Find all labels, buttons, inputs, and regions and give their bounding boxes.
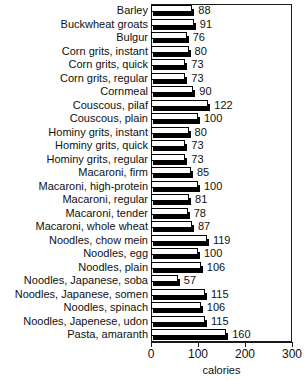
bar [151, 248, 198, 259]
bar-top-face [151, 127, 189, 134]
bar-top-face [151, 221, 192, 228]
bar-row: Bulgur76 [0, 31, 305, 45]
bar-row: Noodles, Japanese, soba57 [0, 274, 305, 288]
bar-row: Buckwheat groats91 [0, 18, 305, 32]
bar-top-face [151, 59, 185, 66]
bar-value-label: 81 [195, 193, 207, 205]
bar-value-label: 73 [191, 72, 203, 84]
bar [151, 113, 198, 124]
x-tick-label: 0 [148, 348, 155, 361]
bar-value-label: 160 [232, 328, 250, 340]
x-axis-line [151, 342, 292, 343]
bar-row: Cornmeal90 [0, 85, 305, 99]
bar-top-face [151, 140, 185, 147]
bar-row: Hominy grits, quick73 [0, 139, 305, 153]
bar-row: Noodles, spinach106 [0, 301, 305, 315]
x-tick-label: 100 [188, 348, 208, 361]
bar-row: Couscous, pilaf122 [0, 99, 305, 113]
bar [151, 221, 192, 232]
bar-top-face [151, 32, 187, 39]
bar [151, 140, 185, 151]
bar [151, 59, 185, 70]
bar-top-face [151, 5, 192, 12]
x-axis-title: calories [151, 364, 292, 376]
bar-value-label: 119 [213, 234, 231, 246]
bar-category-label: Macaroni, tender [65, 207, 148, 219]
bar [151, 194, 189, 205]
bar-value-label: 80 [195, 45, 207, 57]
bar-row: Noodles, Japanese, somen115 [0, 288, 305, 302]
bar [151, 32, 187, 43]
bar-row: Barley88 [0, 4, 305, 18]
bar-row: Macaroni, regular81 [0, 193, 305, 207]
bar-row: Noodles, plain106 [0, 261, 305, 275]
bar-top-face [151, 154, 185, 161]
bar [151, 235, 207, 246]
bar [151, 181, 198, 192]
bar-top-face [151, 73, 185, 80]
bar-value-label: 73 [191, 153, 203, 165]
bar-category-label: Noodles, Japenese, udon [23, 315, 148, 327]
bar-value-label: 85 [197, 166, 209, 178]
bar [151, 208, 188, 219]
bar-value-label: 87 [198, 220, 210, 232]
bar-rows-container: Barley88Buckwheat groats91Bulgur76Corn g… [0, 4, 305, 342]
bar [151, 46, 189, 57]
bar-category-label: Macaroni, high-protein [39, 180, 148, 192]
bar [151, 262, 201, 273]
bar-category-label: Bulgur [116, 31, 148, 43]
bar-value-label: 115 [211, 315, 229, 327]
bar-value-label: 115 [211, 288, 229, 300]
bar-value-label: 73 [191, 139, 203, 151]
bar-category-label: Hominy grits, regular [47, 153, 148, 165]
bar-chart: Barley88Buckwheat groats91Bulgur76Corn g… [0, 0, 305, 380]
bar-category-label: Noodles, Japanese, somen [15, 288, 148, 300]
bar-category-label: Macaroni, whole wheat [35, 220, 148, 232]
bar-category-label: Noodles, spinach [64, 301, 148, 313]
bar-value-label: 100 [204, 247, 222, 259]
bar-category-label: Corn grits, instant [62, 45, 148, 57]
bar-top-face [151, 208, 188, 215]
bar-top-face [151, 289, 205, 296]
bar-top-face [151, 181, 198, 188]
bar-top-face [151, 262, 201, 269]
bar [151, 154, 185, 165]
bar-category-label: Pasta, amaranth [67, 328, 148, 340]
bar [151, 73, 185, 84]
bar-category-label: Hominy grits, instant [48, 126, 148, 138]
bar-row: Noodles, chow mein119 [0, 234, 305, 248]
bar-row: Noodles, Japenese, udon115 [0, 315, 305, 329]
bar-top-face [151, 235, 207, 242]
bar-top-face [151, 329, 226, 336]
bar-top-face [151, 100, 208, 107]
cropped-title-remnant [150, 0, 290, 1]
bar-value-label: 78 [194, 207, 206, 219]
bar-category-label: Barley [117, 4, 148, 16]
bar [151, 329, 226, 340]
bar-row: Couscous, plain100 [0, 112, 305, 126]
bar [151, 167, 191, 178]
bar-category-label: Noodles, chow mein [49, 234, 148, 246]
bar-row: Hominy grits, instant80 [0, 126, 305, 140]
bar-value-label: 106 [207, 261, 225, 273]
bar-category-label: Noodles, Japanese, soba [24, 274, 148, 286]
bar-top-face [151, 248, 198, 255]
bar-value-label: 88 [198, 4, 210, 16]
bar-row: Hominy grits, regular73 [0, 153, 305, 167]
bar-category-label: Macaroni, firm [78, 166, 148, 178]
bar-row: Corn grits, regular73 [0, 72, 305, 86]
bar-value-label: 106 [207, 301, 225, 313]
bar-top-face [151, 19, 194, 26]
bar [151, 275, 178, 286]
bar-value-label: 57 [184, 274, 196, 286]
bar-top-face [151, 167, 191, 174]
x-tick-label: 200 [235, 348, 255, 361]
bar-category-label: Couscous, plain [70, 112, 148, 124]
bar-value-label: 91 [200, 18, 212, 30]
bar-category-label: Noodles, egg [83, 247, 148, 259]
bar-top-face [151, 316, 205, 323]
bar-top-face [151, 113, 198, 120]
bar-value-label: 80 [195, 126, 207, 138]
bar-value-label: 100 [204, 180, 222, 192]
bar-category-label: Couscous, pilaf [73, 99, 148, 111]
